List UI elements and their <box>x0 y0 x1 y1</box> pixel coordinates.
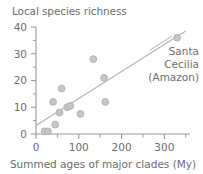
data-point-marker <box>52 121 59 128</box>
y-tick-label: 0 <box>20 128 27 140</box>
y-tick-label: 30 <box>14 48 27 60</box>
data-point-marker <box>50 99 57 106</box>
scatter-plot-figure: Local species richness 010203040 0100200… <box>0 0 203 174</box>
x-axis-ticks: 0100200300 <box>33 134 186 153</box>
annotation-line-3: (Amazon) <box>148 71 199 83</box>
x-tick-label: 100 <box>69 141 89 153</box>
x-axis-title: Summed ages of major clades (My) <box>10 158 196 170</box>
data-point-marker <box>56 109 63 116</box>
data-point-marker <box>45 128 52 135</box>
y-axis-ticks: 010203040 <box>14 21 36 140</box>
data-point-marker <box>174 34 181 41</box>
data-point-marker <box>58 85 65 92</box>
annotation-line-1: Santa <box>169 45 199 57</box>
data-points <box>41 34 180 134</box>
plot-canvas: 010203040 0100200300 Santa Cecilia (Amaz… <box>0 0 203 174</box>
y-tick-label: 10 <box>14 101 27 113</box>
data-point-marker <box>67 103 74 110</box>
y-tick-label: 20 <box>14 74 27 86</box>
data-point-marker <box>77 111 84 118</box>
x-tick-label: 200 <box>112 141 132 153</box>
data-point-marker <box>101 74 108 81</box>
data-point-marker <box>90 56 97 63</box>
annotation-line-2: Cecilia <box>164 58 199 70</box>
x-tick-label: 0 <box>33 141 40 153</box>
y-tick-label: 40 <box>14 21 27 33</box>
x-tick-label: 300 <box>154 141 174 153</box>
data-point-marker <box>102 99 109 106</box>
